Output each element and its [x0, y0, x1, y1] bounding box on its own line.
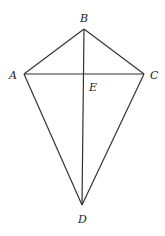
segment-bd — [82, 29, 84, 205]
segment-da — [24, 74, 82, 205]
label-d: D — [77, 213, 87, 226]
segment-ab — [24, 29, 84, 74]
label-a: A — [8, 69, 17, 82]
label-b: B — [79, 12, 88, 25]
label-e: E — [88, 81, 97, 94]
kite-diagram: B A C E D — [0, 0, 165, 236]
segment-bc — [84, 29, 144, 74]
label-c: C — [150, 69, 159, 82]
